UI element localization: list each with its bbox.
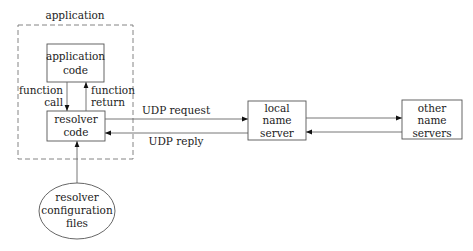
udp-request-label: UDP request bbox=[142, 104, 211, 116]
local-name-server-label-2: name bbox=[262, 114, 291, 126]
function-return-label-1: function bbox=[91, 84, 135, 96]
resolver-config-label-2: configuration bbox=[41, 204, 113, 216]
resolver-code-label-1: resolver bbox=[54, 113, 98, 125]
function-return-label-2: return bbox=[91, 96, 125, 108]
application-code-node: application code bbox=[46, 44, 105, 82]
udp-request-edge: UDP request bbox=[105, 104, 248, 119]
function-call-label-2: call bbox=[44, 96, 63, 108]
function-return-edge: function return bbox=[86, 82, 135, 111]
other-name-servers-label-2: name bbox=[417, 114, 446, 126]
resolver-diagram: application application code resolver co… bbox=[0, 0, 473, 251]
local-name-server-label-1: local bbox=[264, 102, 290, 114]
resolver-config-label-1: resolver bbox=[55, 191, 99, 203]
application-code-label-1: application bbox=[46, 50, 105, 62]
function-call-label-1: function bbox=[19, 84, 63, 96]
udp-reply-edge: UDP reply bbox=[105, 133, 248, 147]
resolver-config-label-3: files bbox=[66, 217, 88, 229]
other-name-servers-node: other name servers bbox=[402, 100, 462, 139]
local-name-server-node: local name server bbox=[248, 101, 306, 140]
resolver-config-files-node: resolver configuration files bbox=[39, 183, 115, 239]
function-call-edge: function call bbox=[19, 82, 67, 111]
resolver-code-node: resolver code bbox=[47, 111, 105, 141]
other-name-servers-label-1: other bbox=[418, 102, 448, 114]
resolver-code-label-2: code bbox=[63, 126, 88, 138]
local-name-server-label-3: server bbox=[260, 127, 295, 139]
other-name-servers-label-3: servers bbox=[412, 127, 451, 139]
application-group-label: application bbox=[45, 9, 104, 21]
udp-reply-label: UDP reply bbox=[149, 135, 204, 147]
application-code-label-2: code bbox=[63, 64, 88, 76]
